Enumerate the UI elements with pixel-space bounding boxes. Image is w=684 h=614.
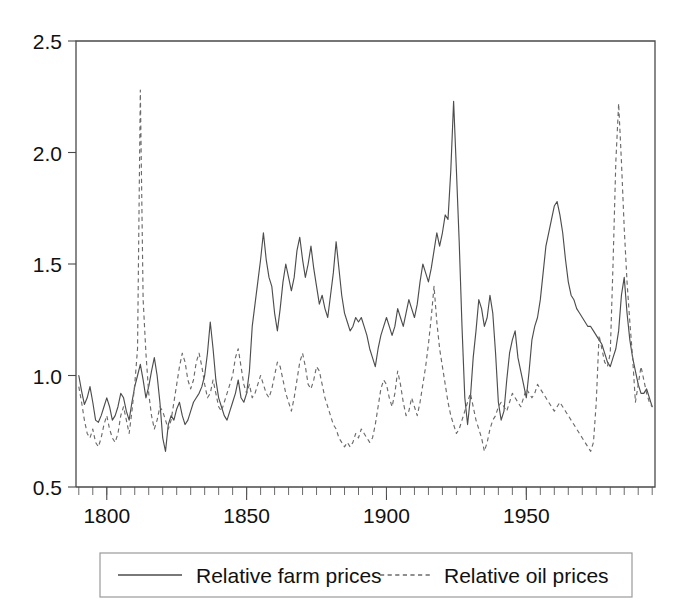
x-tick-label: 1950 xyxy=(503,504,550,527)
y-tick-label: 2.0 xyxy=(33,142,62,165)
legend-label-farm: Relative farm prices xyxy=(196,564,382,587)
chart-legend: Relative farm prices Relative oil prices xyxy=(100,553,632,597)
y-tick-label: 1.5 xyxy=(33,253,62,276)
x-tick-label: 1850 xyxy=(223,504,270,527)
series-relative-farm-prices xyxy=(79,101,652,451)
y-tick-label: 0.5 xyxy=(33,476,62,499)
x-axis-minor-ticks xyxy=(79,487,652,495)
x-tick-label: 1800 xyxy=(83,504,130,527)
y-axis-ticks: 0.51.01.52.02.5 xyxy=(33,30,76,499)
x-tick-label: 1900 xyxy=(363,504,410,527)
legend-label-oil: Relative oil prices xyxy=(444,564,609,587)
series-relative-oil-prices xyxy=(79,90,652,451)
plot-frame xyxy=(76,41,655,487)
line-chart: 0.51.01.52.02.5 1800185019001950 Relativ… xyxy=(0,0,684,614)
y-tick-label: 1.0 xyxy=(33,365,62,388)
figure-container: 0.51.01.52.02.5 1800185019001950 Relativ… xyxy=(0,0,684,614)
y-tick-label: 2.5 xyxy=(33,30,62,53)
